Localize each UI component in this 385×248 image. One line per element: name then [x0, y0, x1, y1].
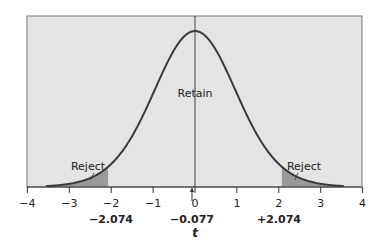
x-tick-label: −4 [19, 197, 35, 210]
x-tick-label: −2 [103, 197, 119, 210]
critical-value-left: −2.074 [89, 213, 133, 226]
x-tick-label: −1 [145, 197, 161, 210]
x-axis-tick-labels: −4−3−2−101234 [19, 197, 366, 210]
x-tick-label: 4 [359, 197, 366, 210]
x-tick-label: −3 [61, 197, 77, 210]
x-tick-label: 3 [317, 197, 324, 210]
observed-value-label: −0.077 [170, 213, 214, 226]
retain-label: Retain [178, 87, 213, 100]
reject-label-left: Reject [71, 160, 106, 173]
t-distribution-chart: −4−3−2−101234 Retain Reject Reject −2.07… [0, 0, 385, 248]
x-axis-title: t [192, 226, 199, 240]
reject-label-right: Reject [287, 160, 322, 173]
x-tick-label: 0 [192, 197, 199, 210]
critical-value-right: +2.074 [257, 213, 301, 226]
x-tick-label: 2 [275, 197, 282, 210]
x-axis-ticks [27, 187, 362, 193]
x-tick-label: 1 [233, 197, 240, 210]
